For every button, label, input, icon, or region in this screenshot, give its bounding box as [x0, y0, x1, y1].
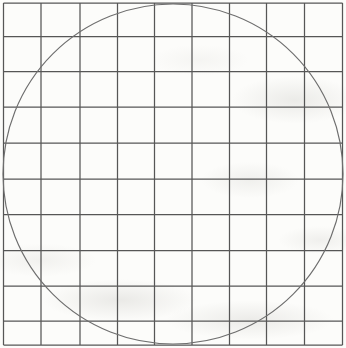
grid-lines	[4, 3, 343, 345]
inscribed-circle	[3, 4, 343, 344]
grid-circle-figure	[0, 0, 346, 348]
circle-shape	[3, 4, 343, 344]
grid-circle-svg	[0, 0, 346, 348]
